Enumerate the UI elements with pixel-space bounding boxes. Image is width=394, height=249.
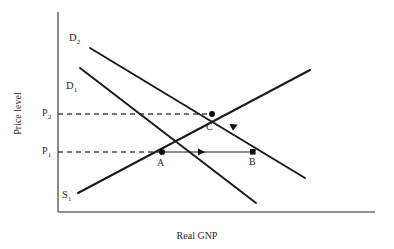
point-label-c: C [206,122,213,132]
point-marker-c [209,111,215,117]
tick-label-p2: P2 [42,108,51,118]
tick-label-p1-sub: 1 [48,151,52,159]
curve-label-d1: D1 [66,81,78,92]
point-label-a: A [157,158,164,168]
arrowhead-a-to-b [198,149,205,156]
curve-s1 [78,70,310,193]
curve-label-s1: S1 [62,190,72,201]
chart-canvas [0,0,394,249]
curve-label-d1-text: D [66,80,74,91]
economics-supply-demand-figure: D2 D1 S1 A B C P2 P1 Price level Real GN… [0,0,394,249]
curve-label-d2-text: D [69,32,77,43]
curve-label-d2-sub: 2 [77,38,81,46]
y-axis-label: Price level [12,79,23,149]
x-axis-label: Real GNP [0,230,394,241]
point-marker-b [250,149,256,155]
point-marker-a [159,149,165,155]
curve-label-d1-sub: 1 [74,86,78,94]
curve-d1 [80,68,256,203]
point-label-b: B [249,157,256,167]
curve-label-d2: D2 [69,33,81,44]
arrowhead-b-to-c [230,124,238,131]
curve-label-s1-sub: 1 [68,195,72,203]
tick-label-p1: P1 [42,146,51,156]
tick-label-p2-sub: 2 [48,113,52,121]
